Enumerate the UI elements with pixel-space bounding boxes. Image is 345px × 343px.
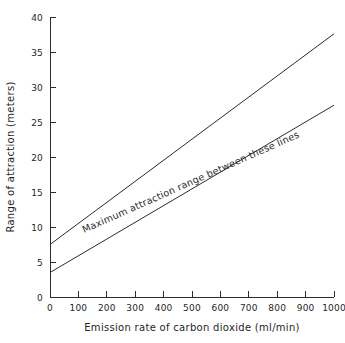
x-tick-label: 900 bbox=[297, 303, 315, 313]
y-tick-label: 10 bbox=[31, 223, 43, 233]
y-tick-label: 40 bbox=[31, 13, 43, 23]
x-tick-label: 300 bbox=[126, 303, 144, 313]
x-tick-label: 100 bbox=[70, 303, 88, 313]
y-tick-label: 20 bbox=[31, 153, 43, 163]
chart-figure: 0 5 10 15 20 25 30 35 40 0 100 bbox=[0, 0, 345, 343]
y-tick-label: 5 bbox=[37, 258, 43, 268]
y-tick-label: 0 bbox=[37, 293, 43, 303]
x-tick-label: 1000 bbox=[322, 303, 345, 313]
x-tick-label: 800 bbox=[268, 303, 286, 313]
x-tick-label: 600 bbox=[212, 303, 230, 313]
x-axis-title: Emission rate of carbon dioxide (ml/min) bbox=[84, 322, 300, 333]
y-tick-label: 15 bbox=[31, 188, 43, 198]
y-axis-title: Range of attraction (meters) bbox=[5, 81, 16, 232]
y-tick-label: 30 bbox=[31, 83, 43, 93]
y-tick-label: 35 bbox=[31, 48, 43, 58]
x-tick-label: 0 bbox=[47, 303, 53, 313]
x-tick-label: 500 bbox=[183, 303, 201, 313]
x-tick-label: 700 bbox=[240, 303, 258, 313]
x-tick-label: 200 bbox=[98, 303, 116, 313]
line-chart-canvas: 0 5 10 15 20 25 30 35 40 0 100 bbox=[0, 0, 345, 343]
chart-background bbox=[0, 0, 345, 343]
x-tick-label: 400 bbox=[155, 303, 173, 313]
y-tick-label: 25 bbox=[31, 118, 43, 128]
